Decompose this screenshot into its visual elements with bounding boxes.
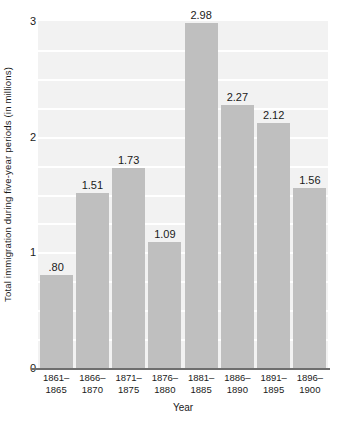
y-axis-title: Total immigration during five-year perio… <box>0 0 16 368</box>
bar[interactable]: .80 <box>40 275 73 368</box>
x-axis-tick-label-line: 1880 <box>147 384 183 396</box>
bar[interactable]: 1.09 <box>148 242 181 368</box>
x-axis-tick-label: 1866–1870 <box>74 372 110 400</box>
x-axis-tick-label-line: 1890 <box>219 384 255 396</box>
x-axis-tick-label-line: 1870 <box>74 384 110 396</box>
bar-value-label: .80 <box>48 262 63 273</box>
bar[interactable]: 1.51 <box>76 193 109 368</box>
x-axis-tick-label-line: 1861– <box>38 372 74 384</box>
bar-value-label: 1.51 <box>82 180 103 191</box>
x-axis-tick-label: 1881–1885 <box>183 372 219 400</box>
bar[interactable]: 2.98 <box>185 23 218 368</box>
x-axis-tick-label-line: 1871– <box>111 372 147 384</box>
bar-series: .801.511.731.092.982.272.121.56 <box>38 21 328 368</box>
bar-slot: 1.56 <box>292 21 328 368</box>
bar-slot: 1.09 <box>147 21 183 368</box>
bar[interactable]: 2.27 <box>221 105 254 368</box>
x-axis-tick-label: 1861–1865 <box>38 372 74 400</box>
x-axis-tick-label-line: 1881– <box>183 372 219 384</box>
bar-slot: 1.73 <box>111 21 147 368</box>
x-axis-tick-label: 1891–1895 <box>256 372 292 400</box>
bar-value-label: 1.56 <box>299 175 320 186</box>
bar-slot: 1.51 <box>74 21 110 368</box>
x-axis-tick-label: 1886–1890 <box>219 372 255 400</box>
plot-area: .801.511.731.092.982.272.121.56 <box>38 21 328 368</box>
x-axis-tick-label: 1876–1880 <box>147 372 183 400</box>
x-axis-tick-labels: 1861–18651866–18701871–18751876–18801881… <box>38 372 328 400</box>
x-axis-tick-label-line: 1866– <box>74 372 110 384</box>
x-axis-tick-label-line: 1876– <box>147 372 183 384</box>
x-axis-tick-label-line: 1875 <box>111 384 147 396</box>
immigration-bar-chart: Total immigration during five-year perio… <box>0 0 339 424</box>
x-axis-line <box>31 368 330 370</box>
bar-value-label: 2.12 <box>263 110 284 121</box>
bar-slot: 2.27 <box>219 21 255 368</box>
y-axis-tick-label: 2 <box>16 131 36 142</box>
y-axis-title-text: Total immigration during five-year perio… <box>3 66 14 301</box>
x-axis-tick-label: 1896–1900 <box>292 372 328 400</box>
x-axis-title: Year <box>38 402 328 413</box>
bar[interactable]: 1.73 <box>112 168 145 368</box>
x-axis-tick-label-line: 1885 <box>183 384 219 396</box>
x-axis-tick-label-line: 1891– <box>256 372 292 384</box>
bar[interactable]: 2.12 <box>257 123 290 368</box>
bar[interactable]: 1.56 <box>293 188 326 368</box>
x-axis-tick-label-line: 1895 <box>256 384 292 396</box>
x-axis-tick-label-line: 1900 <box>292 384 328 396</box>
x-axis-tick-label-line: 1886– <box>219 372 255 384</box>
x-axis-tick-label: 1871–1875 <box>111 372 147 400</box>
x-axis-tick-label-line: 1865 <box>38 384 74 396</box>
x-axis-tick-label-line: 1896– <box>292 372 328 384</box>
bar-slot: 2.98 <box>183 21 219 368</box>
bar-slot: .80 <box>38 21 74 368</box>
bar-value-label: 1.73 <box>118 155 139 166</box>
bar-value-label: 1.09 <box>154 229 175 240</box>
bar-value-label: 2.98 <box>190 10 211 21</box>
y-axis-tick-label: 1 <box>16 247 36 258</box>
bar-value-label: 2.27 <box>227 92 248 103</box>
bar-slot: 2.12 <box>256 21 292 368</box>
y-axis-tick-label: 3 <box>16 16 36 27</box>
